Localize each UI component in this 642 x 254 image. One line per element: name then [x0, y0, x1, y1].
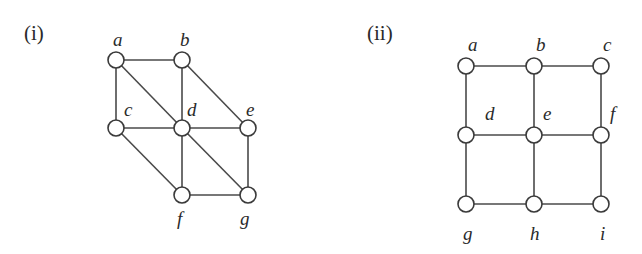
node-a: [108, 52, 124, 68]
node-d: [458, 127, 474, 143]
edge-d-g: [182, 128, 248, 195]
figure-i: (i) abcdefg: [24, 21, 256, 229]
node-b: [174, 52, 190, 68]
node-f: [174, 187, 190, 203]
node-label-c: c: [603, 34, 612, 55]
figure-ii: (ii) abcdefghi: [367, 21, 618, 244]
node-g: [458, 196, 474, 212]
node-label-e: e: [246, 99, 254, 120]
node-h: [526, 196, 542, 212]
node-label-b: b: [536, 34, 546, 55]
node-label-c: c: [124, 99, 133, 120]
node-label-e: e: [543, 103, 551, 124]
node-label-h: h: [530, 223, 540, 244]
node-f: [593, 127, 609, 143]
node-c: [593, 58, 609, 74]
diagram-canvas: (i) abcdefg (ii) abcdefghi: [0, 0, 642, 254]
node-label-g: g: [463, 223, 473, 244]
figure-label-ii: (ii): [367, 21, 393, 45]
node-b: [526, 58, 542, 74]
node-label-d: d: [485, 103, 495, 124]
node-a: [458, 58, 474, 74]
node-c: [108, 120, 124, 136]
node-e: [526, 127, 542, 143]
figure-label-i: (i): [24, 21, 44, 45]
edge-c-f: [116, 128, 182, 195]
node-i: [593, 196, 609, 212]
node-label-f: f: [177, 208, 185, 229]
node-label-a: a: [468, 34, 478, 55]
node-label-i: i: [600, 223, 605, 244]
node-label-d: d: [187, 99, 197, 120]
node-d: [174, 120, 190, 136]
node-e: [240, 120, 256, 136]
node-label-g: g: [240, 208, 250, 229]
node-label-a: a: [113, 29, 123, 50]
node-g: [240, 187, 256, 203]
node-label-f: f: [610, 103, 618, 124]
node-label-b: b: [180, 29, 190, 50]
nodes-i: abcdefg: [108, 29, 256, 229]
